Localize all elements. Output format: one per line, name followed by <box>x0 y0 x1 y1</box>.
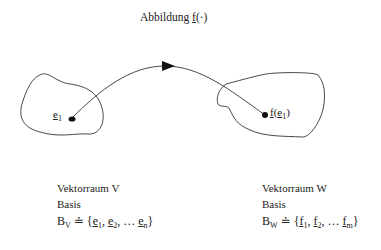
vector-space-w-label: Vektorraum W <box>262 182 327 194</box>
basis-w-label: Basis <box>262 198 286 210</box>
basis-w-relation: ≐ <box>281 214 291 228</box>
label-e1: e1 <box>53 108 62 123</box>
diagram-title: Abbildung f(·) <box>140 11 207 23</box>
basis-w-symbol: B <box>262 214 270 228</box>
basis-v-label: Basis <box>57 198 81 210</box>
basis-v-symbol-sub: V <box>65 221 71 230</box>
label-e1-sub: 1 <box>58 114 62 123</box>
basis-w-close: } <box>353 214 359 228</box>
point-e1 <box>69 116 76 121</box>
basis-v-equation: BV ≐ {e1, e2, … en} <box>57 214 153 230</box>
mapping-arrow-curve <box>72 66 265 118</box>
vector-space-v-label: Vektorraum V <box>57 182 119 194</box>
title-args: (·) <box>196 11 208 23</box>
basis-v-symbol: B <box>57 214 65 228</box>
arrowhead-icon <box>162 61 175 71</box>
title-prefix: Abbildung <box>140 11 192 23</box>
basis-v-relation: ≐ <box>74 214 84 228</box>
paren-close: ) <box>286 106 290 118</box>
point-f-e1 <box>262 112 268 118</box>
basis-w-equation: BW ≐ {f1, f2, … fm} <box>262 214 358 230</box>
mapping-diagram <box>0 0 381 250</box>
vector-space-v-region <box>21 74 103 135</box>
label-f-e1: f(e1) <box>270 106 290 121</box>
basis-w-symbol-sub: W <box>270 221 278 230</box>
basis-v-ellipsis: … <box>123 214 135 228</box>
basis-v-close: } <box>148 214 154 228</box>
basis-w-ellipsis: … <box>327 214 339 228</box>
vector-space-w-region <box>217 73 324 137</box>
